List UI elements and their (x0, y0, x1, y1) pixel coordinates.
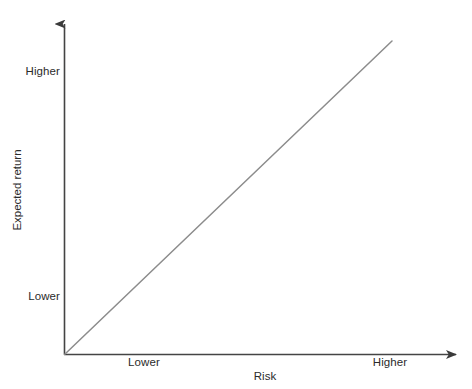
x-axis-tick-label-higher: Higher (373, 357, 407, 369)
risk-return-chart: Higher Lower Lower Higher Risk Expected … (0, 0, 472, 389)
trend-line-series (65, 41, 393, 355)
x-axis-title: Risk (254, 371, 276, 383)
y-axis-tick-label-higher: Higher (26, 66, 60, 78)
x-axis-tick-label-lower: Lower (128, 357, 160, 369)
y-axis-tick-label-lower: Lower (28, 291, 60, 303)
chart-canvas (0, 0, 472, 389)
y-axis-title: Expected return (12, 149, 24, 230)
